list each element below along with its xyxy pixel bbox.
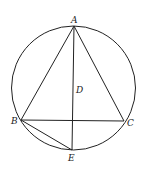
segment-AC (74, 26, 124, 121)
segment-BE (21, 120, 72, 150)
label-B: B (10, 116, 18, 126)
label-E: E (67, 153, 75, 163)
label-D: D (75, 85, 83, 95)
segment-AB (21, 26, 74, 120)
label-A: A (70, 15, 78, 25)
segment-AE (72, 26, 74, 150)
label-C: C (127, 118, 134, 128)
geometry-diagram: A B C D E (0, 0, 148, 174)
